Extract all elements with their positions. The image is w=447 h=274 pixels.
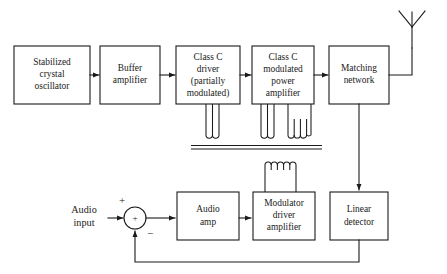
block-label-line: (partially: [191, 76, 226, 87]
plus-sign-label: +: [119, 194, 125, 206]
block-label-line: amplifier: [266, 88, 301, 98]
block-label-line: amp: [200, 217, 216, 227]
block-audio-amp: Audio amp: [177, 192, 239, 240]
block-label-line: Buffer: [118, 63, 143, 73]
block-label-line: detector: [344, 217, 375, 227]
block-label-line: driver: [273, 210, 296, 220]
block-label-line: network: [344, 75, 375, 85]
block-class-c-modulated-power-amplifier: Class C modulated power amplifier: [252, 46, 314, 104]
block-label-line: Modulator: [264, 198, 304, 208]
block-modulator-driver-amplifier: Modulator driver amplifier: [253, 192, 315, 240]
block-label-line: Stabilized: [33, 57, 71, 67]
block-label-line: Class C: [194, 52, 223, 62]
summing-junction: +: [124, 207, 146, 229]
modulation-transformer: [191, 104, 322, 192]
wire-feedback-detector-to-sum: [135, 231, 359, 262]
block-label-line: Matching: [341, 63, 377, 73]
block-linear-detector: Linear detector: [330, 192, 388, 240]
minus-sign-label: −: [147, 227, 153, 239]
block-label-line: driver: [197, 64, 220, 74]
block-label-line: Audio: [196, 204, 220, 214]
transformer-secondary-coil-2: [261, 104, 274, 138]
block-class-c-driver: Class C driver (partially modulated): [176, 46, 240, 104]
audio-input-label: Audio input: [71, 204, 96, 228]
audio-input-line-1: Audio: [71, 204, 96, 215]
transformer-secondary-coil-3: [288, 104, 311, 138]
antenna-icon: [399, 11, 425, 48]
block-label-line: modulated: [263, 64, 303, 74]
block-matching-network: Matching network: [329, 46, 389, 104]
block-label-line: Class C: [269, 52, 298, 62]
transformer-primary-coil: [265, 162, 296, 192]
block-buffer-amplifier: Buffer amplifier: [100, 46, 160, 104]
audio-input-line-2: input: [74, 217, 95, 228]
block-label-line: power: [271, 76, 295, 86]
block-outline: [177, 192, 239, 240]
block-label-line: amplifier: [267, 222, 302, 232]
block-outline: [330, 192, 388, 240]
summing-junction-operator: +: [132, 213, 137, 223]
block-stabilized-crystal-oscillator: Stabilized crystal oscillator: [14, 46, 90, 104]
block-diagram-canvas: Stabilized crystal oscillator Buffer amp…: [0, 0, 447, 274]
transformer-secondary-coil-1: [206, 104, 219, 138]
block-label-line: Linear: [347, 204, 372, 214]
block-label-line: modulated): [187, 88, 230, 99]
block-label-line: oscillator: [35, 81, 71, 91]
wire-matching-to-antenna: [389, 48, 412, 75]
block-label-line: amplifier: [113, 75, 148, 85]
block-label-line: crystal: [40, 69, 65, 79]
schematic-svg: Stabilized crystal oscillator Buffer amp…: [0, 0, 447, 274]
